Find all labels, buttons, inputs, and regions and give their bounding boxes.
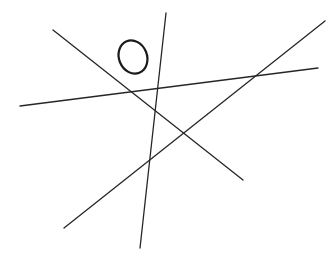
sketch-canvas	[0, 0, 336, 262]
sketch-svg	[0, 0, 336, 262]
canvas-background	[0, 0, 336, 262]
